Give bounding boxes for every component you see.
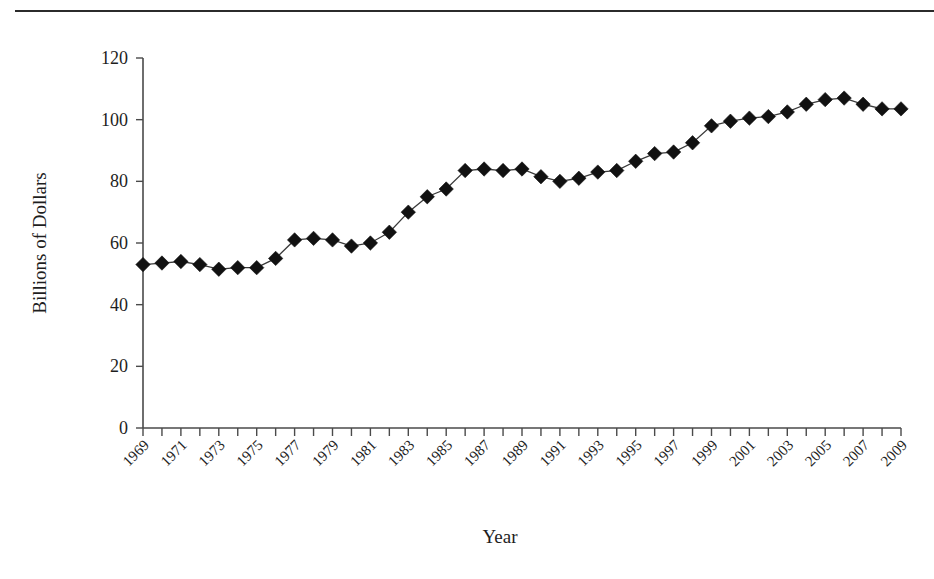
data-point: [534, 170, 548, 184]
x-tick-label: 1973: [195, 437, 228, 470]
x-tick-label: 1975: [233, 437, 266, 470]
header-rule: [15, 10, 934, 12]
y-tick-label: 120: [101, 48, 128, 68]
y-tick-label: 40: [110, 295, 128, 315]
x-tick-label: 2009: [878, 437, 911, 470]
data-point: [363, 236, 377, 250]
x-tick-label: 2003: [764, 437, 797, 470]
series-markers: [136, 91, 908, 277]
x-axis-title: Year: [482, 526, 518, 547]
data-point: [875, 102, 889, 116]
x-tick-label: 1991: [536, 437, 569, 470]
x-axis-tick-labels: 1969197119731975197719791981198319851987…: [120, 436, 911, 469]
data-point: [174, 254, 188, 268]
data-point: [666, 145, 680, 159]
y-axis: 020406080100120 Billions of Dollars: [29, 48, 143, 438]
x-tick-label: 1999: [688, 437, 721, 470]
x-tick-label: 1981: [347, 437, 380, 470]
data-point: [723, 114, 737, 128]
y-axis-tick-labels: 020406080100120: [101, 48, 128, 438]
y-tick-label: 80: [110, 171, 128, 191]
data-series: [136, 91, 908, 277]
x-tick-label: 1997: [650, 436, 683, 469]
data-point: [420, 190, 434, 204]
data-point: [231, 260, 245, 274]
x-axis: 1969197119731975197719791981198319851987…: [120, 428, 911, 547]
data-point: [553, 174, 567, 188]
x-axis-ticks: [143, 428, 901, 436]
data-point: [780, 105, 794, 119]
x-tick-label: 2007: [840, 436, 873, 469]
data-point: [212, 262, 226, 276]
x-tick-label: 1987: [461, 436, 494, 469]
data-point: [477, 162, 491, 176]
data-point: [761, 109, 775, 123]
y-tick-label: 20: [110, 356, 128, 376]
y-tick-label: 100: [101, 110, 128, 130]
x-tick-label: 1969: [120, 437, 153, 470]
x-tick-label: 1995: [612, 437, 645, 470]
x-tick-label: 1989: [499, 437, 532, 470]
data-point: [742, 111, 756, 125]
data-point: [629, 154, 643, 168]
data-point: [856, 97, 870, 111]
data-point: [325, 233, 339, 247]
line-chart: 020406080100120 Billions of Dollars 1969…: [0, 0, 934, 579]
data-point: [572, 171, 586, 185]
data-point: [250, 260, 264, 274]
y-tick-label: 0: [119, 418, 128, 438]
data-point: [515, 162, 529, 176]
x-tick-label: 2005: [802, 437, 835, 470]
data-point: [496, 163, 510, 177]
data-point: [799, 97, 813, 111]
x-tick-label: 1971: [157, 437, 190, 470]
data-point: [591, 165, 605, 179]
data-point: [610, 163, 624, 177]
y-tick-label: 60: [110, 233, 128, 253]
data-point: [818, 92, 832, 106]
x-tick-label: 2001: [726, 437, 759, 470]
x-tick-label: 1983: [385, 437, 418, 470]
x-tick-label: 1993: [574, 437, 607, 470]
y-axis-ticks: [136, 58, 143, 428]
y-axis-title: Billions of Dollars: [29, 172, 50, 313]
chart-figure: 020406080100120 Billions of Dollars 1969…: [0, 0, 934, 579]
x-tick-label: 1979: [309, 437, 342, 470]
data-point: [136, 257, 150, 271]
data-point: [306, 231, 320, 245]
data-point: [894, 102, 908, 116]
data-point: [344, 239, 358, 253]
x-tick-label: 1985: [423, 437, 456, 470]
data-point: [193, 257, 207, 271]
data-point: [647, 146, 661, 160]
data-point: [155, 256, 169, 270]
data-point: [837, 91, 851, 105]
series-line: [143, 98, 901, 269]
x-tick-label: 1977: [271, 436, 304, 469]
